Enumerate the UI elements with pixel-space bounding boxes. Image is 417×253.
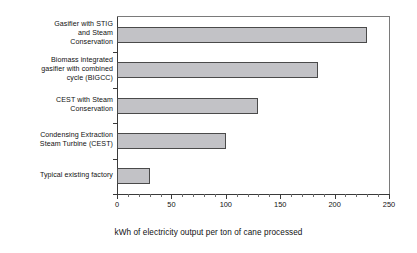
- category-tick: [113, 52, 117, 53]
- category-label-line: Conservation: [0, 38, 113, 47]
- bar: [117, 168, 150, 184]
- x-tick-minor: [193, 194, 194, 197]
- bar: [117, 27, 367, 43]
- x-tick-label: 0: [115, 200, 119, 210]
- plot-area: [117, 16, 390, 195]
- x-axis-title: kWh of electricity output per ton of can…: [0, 228, 417, 237]
- x-tick-label: 150: [274, 200, 286, 210]
- x-tick-label: 100: [220, 200, 232, 210]
- x-tick-label: 200: [328, 200, 340, 210]
- x-tick-minor: [324, 194, 325, 197]
- x-tick-minor: [182, 194, 183, 197]
- bar-chart-figure: Gasifier with STIGand SteamConservationB…: [0, 0, 417, 253]
- x-tick-major: [389, 194, 390, 199]
- category-label-line: cycle (BIGCC): [0, 74, 113, 83]
- x-tick-minor: [150, 194, 151, 197]
- category-label: Condensing ExtractionSteam Turbine (CEST…: [0, 131, 113, 149]
- x-tick-minor: [345, 194, 346, 197]
- x-tick-major: [280, 194, 281, 199]
- x-tick-minor: [258, 194, 259, 197]
- x-tick-major: [117, 194, 118, 199]
- category-tick: [113, 123, 117, 124]
- x-tick-minor: [269, 194, 270, 197]
- category-label: Typical existing factory: [0, 171, 113, 180]
- x-tick-label: 50: [167, 200, 175, 210]
- category-label-line: Condensing Extraction: [0, 131, 113, 140]
- x-axis-tick-labels: 050100150200250: [117, 200, 390, 212]
- category-label-line: gasifier with combined: [0, 65, 113, 74]
- x-tick-minor: [248, 194, 249, 197]
- x-tick-minor: [215, 194, 216, 197]
- category-axis-labels: Gasifier with STIGand SteamConservationB…: [0, 16, 113, 193]
- category-label: CEST with SteamConservation: [0, 96, 113, 114]
- x-tick-major: [335, 194, 336, 199]
- category-label-line: Conservation: [0, 105, 113, 114]
- x-tick-minor: [161, 194, 162, 197]
- x-tick-major: [226, 194, 227, 199]
- x-tick-major: [171, 194, 172, 199]
- x-tick-minor: [237, 194, 238, 197]
- category-label-line: CEST with Steam: [0, 96, 113, 105]
- x-tick-minor: [378, 194, 379, 197]
- x-tick-minor: [313, 194, 314, 197]
- category-label: Biomass integratedgasifier with combined…: [0, 56, 113, 83]
- category-label-line: Steam Turbine (CEST): [0, 140, 113, 149]
- x-tick-minor: [128, 194, 129, 197]
- x-tick-minor: [139, 194, 140, 197]
- category-tick: [113, 159, 117, 160]
- category-label-line: Typical existing factory: [0, 171, 113, 180]
- category-tick: [113, 88, 117, 89]
- bar: [117, 98, 258, 114]
- category-label-line: Gasifier with STIG: [0, 20, 113, 29]
- x-tick-minor: [291, 194, 292, 197]
- x-tick-minor: [367, 194, 368, 197]
- bar: [117, 62, 318, 78]
- x-tick-minor: [356, 194, 357, 197]
- x-tick-minor: [302, 194, 303, 197]
- bar: [117, 133, 226, 149]
- category-label: Gasifier with STIGand SteamConservation: [0, 20, 113, 47]
- category-label-line: and Steam: [0, 29, 113, 38]
- x-tick-minor: [204, 194, 205, 197]
- x-tick-label: 250: [383, 200, 395, 210]
- category-label-line: Biomass integrated: [0, 56, 113, 65]
